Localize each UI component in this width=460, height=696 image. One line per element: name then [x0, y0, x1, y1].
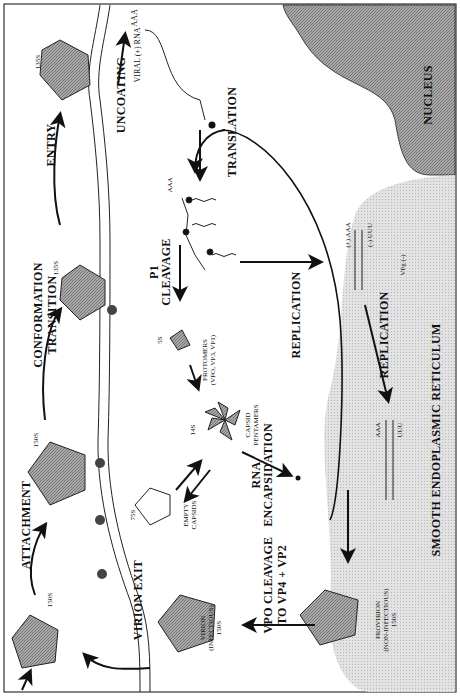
poliovirus-lifecycle-diagram: NUCLEUS SMOOTH ENDOPLASMIC RETICULUM 135…	[0, 0, 460, 696]
label-aaa-3: AAA	[374, 422, 382, 437]
label-5s: 5S	[156, 336, 164, 344]
label-virion-exit: VIRION EXIT	[131, 560, 145, 640]
label-135s-a: 135S	[34, 55, 42, 70]
label-entry: ENTRY	[44, 123, 58, 166]
label-provirion-3: 150S	[390, 613, 398, 628]
label-virion-2: (INFECTIOUS)	[207, 605, 215, 651]
er-label: SMOOTH ENDOPLASMIC RETICULUM	[429, 323, 443, 556]
label-replication-1: REPLICATION	[289, 271, 303, 358]
label-replication-2: REPLICATION	[377, 291, 391, 378]
label-uncoating: UNCOATING	[114, 57, 128, 133]
label-135s-b: 135S	[52, 261, 60, 276]
label-virion-1: VIRION	[199, 616, 207, 641]
label-p1-2: CLEAVAGE	[159, 238, 173, 305]
label-vpg: VPg (-)	[399, 254, 407, 276]
label-provirion-1: PROVIRION	[374, 601, 382, 639]
label-150s-a: 150S	[32, 433, 40, 448]
label-attachment: ATTACHMENT	[19, 481, 33, 570]
label-rna-enc-2: ENCAPSIDATION	[261, 423, 275, 527]
label-75s: 75S	[129, 509, 137, 520]
label-pentamers-2: PENTAMERS	[252, 404, 260, 445]
nucleus-label: NUCLEUS	[421, 65, 435, 124]
label-aaa-2: AAA	[166, 177, 174, 192]
label-vpo-2: TO VP4 + VP2	[275, 545, 289, 625]
label-plus-aaa: (+) AAA	[344, 222, 352, 247]
label-protomers-2: (VPO, VP3, VP1)	[209, 334, 217, 385]
label-provirion-2: (NON-INFECTIOUS)	[382, 588, 390, 652]
label-14s: 14S	[189, 424, 197, 435]
label-translation: TRANSLATION	[225, 87, 239, 177]
label-empty-1: EMPTY	[182, 503, 190, 527]
label-conformation-2: TRANSITION	[45, 275, 59, 354]
label-protomers-1: PROTOMERS	[201, 339, 209, 381]
label-uuu: UUU	[396, 422, 404, 437]
label-minus-uuu: (-) UUU	[366, 223, 374, 247]
label-pentamers-1: CAPSID	[244, 413, 252, 438]
label-viral-rna: VIRAL (+) RNA	[133, 27, 142, 82]
label-empty-2: CAPSIDS	[190, 501, 198, 530]
label-150s-b: 150S	[46, 593, 54, 608]
label-virion-3: 150S	[215, 621, 223, 636]
label-conformation-1: CONFORMATION	[31, 262, 45, 367]
label-aaa-1: AAA	[130, 9, 139, 27]
label-vpo-1: VPO CLEAVAGE	[261, 537, 275, 634]
